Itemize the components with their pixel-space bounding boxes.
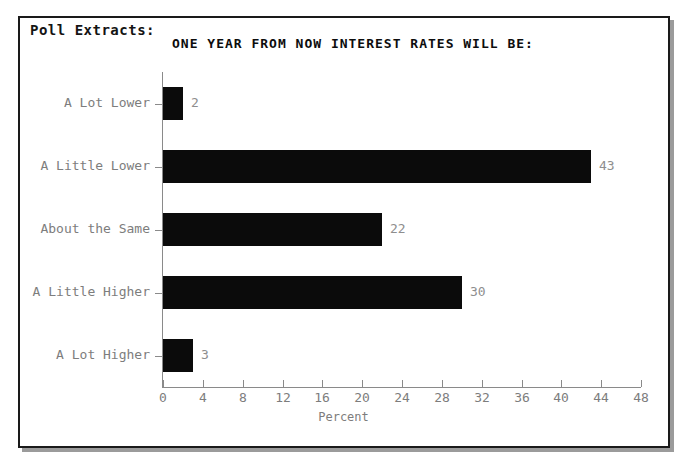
y-tick-mark bbox=[155, 167, 162, 168]
poll-extract-chart-page: Poll Extracts: ONE YEAR FROM NOW INTERES… bbox=[0, 0, 687, 469]
x-tick-mark bbox=[203, 380, 204, 387]
bar bbox=[163, 150, 591, 183]
x-tick-mark bbox=[482, 380, 483, 387]
x-tick-mark bbox=[243, 380, 244, 387]
bar bbox=[163, 339, 193, 372]
x-tick-label: 48 bbox=[633, 390, 649, 405]
bar-value-label: 2 bbox=[191, 95, 199, 110]
bar-value-label: 43 bbox=[599, 158, 615, 173]
category-label: A Lot Lower bbox=[64, 95, 150, 110]
plot-area: 24322303 A Lot LowerA Little LowerAbout … bbox=[0, 0, 687, 469]
category-label: A Little Higher bbox=[33, 284, 150, 299]
x-tick-label: 0 bbox=[159, 390, 167, 405]
y-tick-mark bbox=[155, 293, 162, 294]
x-tick-label: 24 bbox=[394, 390, 410, 405]
x-tick-mark bbox=[402, 380, 403, 387]
x-tick-label: 16 bbox=[314, 390, 330, 405]
page-title: Poll Extracts: bbox=[30, 22, 155, 38]
x-tick-label: 28 bbox=[434, 390, 450, 405]
bar bbox=[163, 213, 382, 246]
x-tick-mark bbox=[601, 380, 602, 387]
x-tick-mark bbox=[163, 380, 164, 387]
bar-value-label: 22 bbox=[390, 221, 406, 236]
x-tick-mark bbox=[561, 380, 562, 387]
x-tick-label: 20 bbox=[354, 390, 370, 405]
x-tick-label: 32 bbox=[474, 390, 490, 405]
y-tick-mark bbox=[155, 104, 162, 105]
chart-title: ONE YEAR FROM NOW INTEREST RATES WILL BE… bbox=[172, 36, 534, 51]
x-tick-mark bbox=[522, 380, 523, 387]
x-tick-label: 44 bbox=[593, 390, 609, 405]
bar bbox=[163, 87, 183, 120]
x-tick-mark bbox=[442, 380, 443, 387]
category-label: A Lot Higher bbox=[56, 347, 150, 362]
bar-value-label: 30 bbox=[470, 284, 486, 299]
bar-value-label: 3 bbox=[201, 347, 209, 362]
x-tick-mark bbox=[322, 380, 323, 387]
x-tick-label: 12 bbox=[275, 390, 291, 405]
x-tick-mark bbox=[641, 380, 642, 387]
bar bbox=[163, 276, 462, 309]
x-tick-mark bbox=[362, 380, 363, 387]
x-axis-line bbox=[162, 387, 641, 388]
x-tick-label: 8 bbox=[239, 390, 247, 405]
x-tick-label: 36 bbox=[514, 390, 530, 405]
x-tick-mark bbox=[283, 380, 284, 387]
y-tick-mark bbox=[155, 230, 162, 231]
category-label: A Little Lower bbox=[40, 158, 150, 173]
category-label: About the Same bbox=[40, 221, 150, 236]
x-tick-label: 4 bbox=[199, 390, 207, 405]
y-tick-mark bbox=[155, 356, 162, 357]
x-tick-label: 40 bbox=[553, 390, 569, 405]
